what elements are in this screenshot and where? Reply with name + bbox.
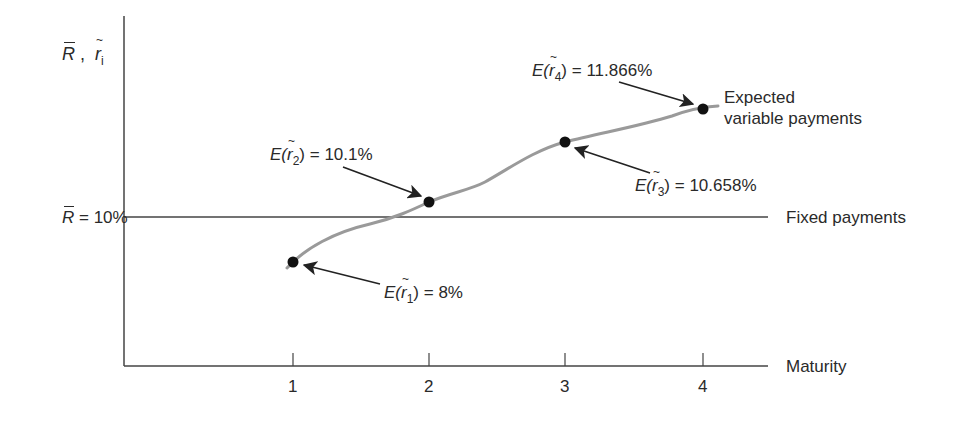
x-tick-label-1: 1 — [288, 378, 297, 395]
x-tick-label-4: 4 — [698, 378, 707, 395]
data-point-1 — [288, 257, 299, 268]
annotation-r2: E(~r2) = 10.1% — [270, 146, 373, 163]
annotation-r4: E(~r4) = 11.866% — [532, 62, 652, 79]
y-axis-title: R , ~ri — [62, 45, 104, 63]
data-point-2 — [424, 197, 435, 208]
x-axis-title: Maturity — [786, 358, 846, 375]
data-point-4 — [698, 104, 709, 115]
arrow-1 — [304, 265, 380, 284]
fixed-series-label: Fixed payments — [786, 209, 906, 226]
annotation-r3: E(~r3) = 10.658% — [635, 177, 757, 194]
variable-series-label-line2: variable payments — [724, 110, 862, 127]
data-point-3 — [560, 137, 571, 148]
annotation-r1: E(~r1) = 8% — [384, 284, 463, 301]
x-tick-label-2: 2 — [424, 378, 433, 395]
fixed-rate-label: R = 10% — [62, 209, 128, 226]
arrow-3 — [575, 148, 650, 173]
arrow-2 — [343, 167, 421, 196]
arrow-4 — [619, 82, 693, 104]
x-tick-label-3: 3 — [560, 378, 569, 395]
variable-series-label-line1: Expected — [724, 89, 795, 106]
